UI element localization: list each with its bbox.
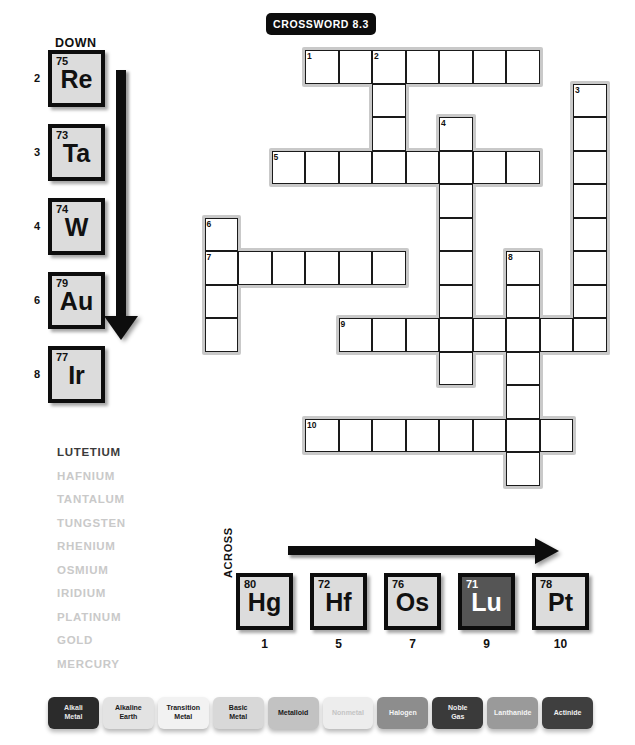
crossword-cell[interactable] bbox=[506, 318, 540, 352]
legend-label-line: Basic bbox=[229, 704, 248, 713]
crossword-cell[interactable] bbox=[372, 151, 406, 185]
crossword-cell[interactable] bbox=[573, 285, 607, 319]
across-element-tile-hf[interactable]: 72Hf bbox=[310, 573, 367, 630]
across-element-tile-hg[interactable]: 80Hg bbox=[236, 573, 293, 630]
legend-item-basic-metal[interactable]: BasicMetal bbox=[213, 697, 264, 729]
legend-label-line: Earth bbox=[119, 713, 137, 722]
crossword-clue-number-3: 3 bbox=[575, 85, 580, 95]
crossword-cell[interactable] bbox=[439, 184, 473, 218]
legend-item-actinide[interactable]: Actinide bbox=[542, 697, 593, 729]
crossword-cell[interactable] bbox=[506, 452, 540, 486]
crossword-cell[interactable] bbox=[339, 50, 373, 84]
crossword-cell[interactable] bbox=[439, 285, 473, 319]
crossword-cell[interactable] bbox=[573, 251, 607, 285]
word-list-item: LUTETIUM bbox=[57, 446, 126, 458]
crossword-cell[interactable] bbox=[439, 50, 473, 84]
crossword-cell[interactable] bbox=[506, 151, 540, 185]
across-section-label: ACROSS bbox=[222, 527, 234, 578]
crossword-cell[interactable] bbox=[272, 251, 306, 285]
crossword-cell[interactable] bbox=[406, 151, 440, 185]
legend-item-alkali-metal[interactable]: AlkaliMetal bbox=[48, 697, 99, 729]
crossword-clue-number-10: 10 bbox=[307, 420, 316, 430]
word-list-item: PLATINUM bbox=[57, 611, 126, 623]
crossword-cell[interactable] bbox=[473, 318, 507, 352]
legend-label-line: Lanthanide bbox=[494, 709, 531, 718]
down-element-tile-ir[interactable]: 77Ir bbox=[48, 346, 105, 403]
legend-label-line: Metal bbox=[65, 713, 83, 722]
legend-item-transition-metal[interactable]: TransitionMetal bbox=[158, 697, 209, 729]
crossword-cell[interactable] bbox=[372, 419, 406, 453]
legend-label-line: Nonmetal bbox=[332, 709, 364, 718]
down-element-tile-re[interactable]: 75Re bbox=[48, 50, 105, 107]
crossword-cell[interactable] bbox=[573, 151, 607, 185]
down-element-tile-w[interactable]: 74W bbox=[48, 198, 105, 255]
crossword-cell[interactable] bbox=[238, 251, 272, 285]
down-element-tile-au[interactable]: 79Au bbox=[48, 272, 105, 329]
across-element-tile-lu[interactable]: 71Lu bbox=[458, 573, 515, 630]
element-symbol: Lu bbox=[462, 590, 511, 615]
crossword-cell[interactable] bbox=[305, 251, 339, 285]
down-clue-number-4: 4 bbox=[24, 220, 40, 232]
crossword-cell[interactable] bbox=[573, 117, 607, 151]
crossword-cell[interactable] bbox=[372, 251, 406, 285]
crossword-cell[interactable] bbox=[506, 50, 540, 84]
crossword-cell[interactable] bbox=[339, 419, 373, 453]
crossword-cell[interactable] bbox=[573, 184, 607, 218]
crossword-cell[interactable] bbox=[205, 285, 239, 319]
crossword-cell[interactable] bbox=[573, 318, 607, 352]
crossword-cell[interactable] bbox=[406, 50, 440, 84]
across-clue-number-1: 1 bbox=[236, 637, 293, 651]
down-clue-number-3: 3 bbox=[24, 146, 40, 158]
word-list-item: TUNGSTEN bbox=[57, 517, 126, 529]
crossword-cell[interactable] bbox=[473, 151, 507, 185]
legend-label-line: Metal bbox=[229, 713, 247, 722]
word-list-item: RHENIUM bbox=[57, 540, 126, 552]
crossword-cell[interactable] bbox=[372, 84, 406, 118]
crossword-clue-number-8: 8 bbox=[508, 252, 513, 262]
word-list-item: IRIDIUM bbox=[57, 587, 126, 599]
legend-item-alkaline-earth[interactable]: AlkalineEarth bbox=[103, 697, 154, 729]
crossword-cell[interactable] bbox=[439, 218, 473, 252]
legend-item-noble-gas[interactable]: NobleGas bbox=[432, 697, 483, 729]
legend-item-halogen[interactable]: Halogen bbox=[377, 697, 428, 729]
element-symbol: Pt bbox=[536, 590, 585, 615]
word-list-item: OSMIUM bbox=[57, 564, 126, 576]
crossword-cell[interactable] bbox=[439, 251, 473, 285]
across-clue-number-9: 9 bbox=[458, 637, 515, 651]
crossword-cell[interactable] bbox=[506, 352, 540, 386]
crossword-cell[interactable] bbox=[506, 385, 540, 419]
crossword-cell[interactable] bbox=[439, 318, 473, 352]
crossword-cell[interactable] bbox=[406, 419, 440, 453]
element-symbol: W bbox=[52, 215, 101, 240]
crossword-cell[interactable] bbox=[372, 117, 406, 151]
crossword-cell[interactable] bbox=[473, 419, 507, 453]
legend-item-lanthanide[interactable]: Lanthanide bbox=[487, 697, 538, 729]
crossword-cell[interactable] bbox=[339, 251, 373, 285]
crossword-cell[interactable] bbox=[439, 419, 473, 453]
crossword-cell[interactable] bbox=[205, 318, 239, 352]
crossword-cell[interactable] bbox=[506, 285, 540, 319]
across-element-tile-os[interactable]: 76Os bbox=[384, 573, 441, 630]
crossword-cell[interactable] bbox=[305, 151, 339, 185]
element-symbol: Os bbox=[388, 590, 437, 615]
crossword-cell[interactable] bbox=[473, 50, 507, 84]
legend-label-line: Gas bbox=[451, 713, 464, 722]
legend-item-metalloid[interactable]: Metalloid bbox=[268, 697, 319, 729]
crossword-cell[interactable] bbox=[439, 352, 473, 386]
legend-item-nonmetal[interactable]: Nonmetal bbox=[323, 697, 374, 729]
crossword-cell[interactable] bbox=[573, 218, 607, 252]
crossword-cell[interactable] bbox=[439, 151, 473, 185]
across-element-tile-pt[interactable]: 78Pt bbox=[532, 573, 589, 630]
down-clue-number-8: 8 bbox=[24, 368, 40, 380]
crossword-cell[interactable] bbox=[339, 151, 373, 185]
legend-label-line: Actinide bbox=[554, 709, 582, 718]
crossword-cell[interactable] bbox=[406, 318, 440, 352]
crossword-cell[interactable] bbox=[372, 318, 406, 352]
crossword-cell[interactable] bbox=[540, 419, 574, 453]
crossword-clue-number-7: 7 bbox=[207, 252, 212, 262]
crossword-cell[interactable] bbox=[506, 419, 540, 453]
crossword-cell[interactable] bbox=[540, 318, 574, 352]
down-element-tile-ta[interactable]: 73Ta bbox=[48, 124, 105, 181]
word-list-item: MERCURY bbox=[57, 658, 126, 670]
down-clue-number-2: 2 bbox=[24, 72, 40, 84]
